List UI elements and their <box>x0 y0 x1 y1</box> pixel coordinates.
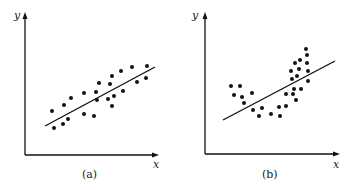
data-point <box>305 61 309 65</box>
data-point <box>269 112 273 116</box>
data-point <box>94 90 98 94</box>
data-point <box>97 81 101 85</box>
data-point <box>240 95 244 99</box>
data-point <box>291 92 295 96</box>
data-point <box>106 97 110 101</box>
fit-line-a <box>45 67 155 126</box>
data-point <box>229 84 233 88</box>
data-point <box>294 98 298 102</box>
y-axis-arrow-b <box>203 12 208 19</box>
data-point <box>82 91 86 95</box>
data-point <box>50 109 54 113</box>
data-point <box>304 47 308 51</box>
data-point <box>292 87 296 91</box>
data-point <box>144 76 148 80</box>
data-point <box>277 105 281 109</box>
panel-a: y x (a) <box>13 9 160 181</box>
fit-line-b <box>223 61 335 120</box>
data-point <box>62 103 66 107</box>
data-point <box>305 53 309 57</box>
data-point <box>238 84 242 88</box>
data-point <box>92 114 96 118</box>
data-point <box>284 92 288 96</box>
caption-a: (a) <box>82 168 97 181</box>
y-axis-arrow-a <box>23 12 28 19</box>
data-point <box>250 91 254 95</box>
data-point <box>108 82 112 86</box>
x-axis-label-b: x <box>333 158 340 171</box>
data-points-b <box>229 47 310 118</box>
data-point <box>110 74 114 78</box>
data-point <box>297 67 301 71</box>
data-point <box>119 69 123 73</box>
data-point <box>82 112 86 116</box>
data-point <box>257 114 261 118</box>
data-point <box>242 101 246 105</box>
x-axis-label-a: x <box>153 158 160 171</box>
x-axis-arrow-a <box>152 153 159 158</box>
data-point <box>295 74 299 78</box>
data-point <box>135 80 139 84</box>
data-point <box>251 108 255 112</box>
data-point <box>66 117 70 121</box>
data-point <box>112 94 116 98</box>
data-point <box>284 104 288 108</box>
data-point <box>290 77 294 81</box>
data-point <box>299 87 303 91</box>
data-point <box>260 106 264 110</box>
data-point <box>110 104 114 108</box>
data-point <box>293 61 297 65</box>
panel-b: y x (b) <box>191 9 340 181</box>
data-point <box>306 69 310 73</box>
scatter-figure: y x (a) y x (b) <box>0 0 348 190</box>
data-point <box>61 122 65 126</box>
data-point <box>52 126 56 130</box>
data-point <box>232 93 236 97</box>
data-point <box>121 89 125 93</box>
data-point <box>306 79 310 83</box>
data-point <box>289 69 293 73</box>
y-axis-label-b: y <box>191 9 199 22</box>
data-point <box>130 65 134 69</box>
data-point <box>298 58 302 62</box>
caption-b: (b) <box>262 168 278 181</box>
data-point <box>69 96 73 100</box>
data-point <box>278 114 282 118</box>
data-point <box>95 98 99 102</box>
y-axis-label-a: y <box>13 9 21 22</box>
x-axis-arrow-b <box>333 152 340 157</box>
data-point <box>145 64 149 68</box>
